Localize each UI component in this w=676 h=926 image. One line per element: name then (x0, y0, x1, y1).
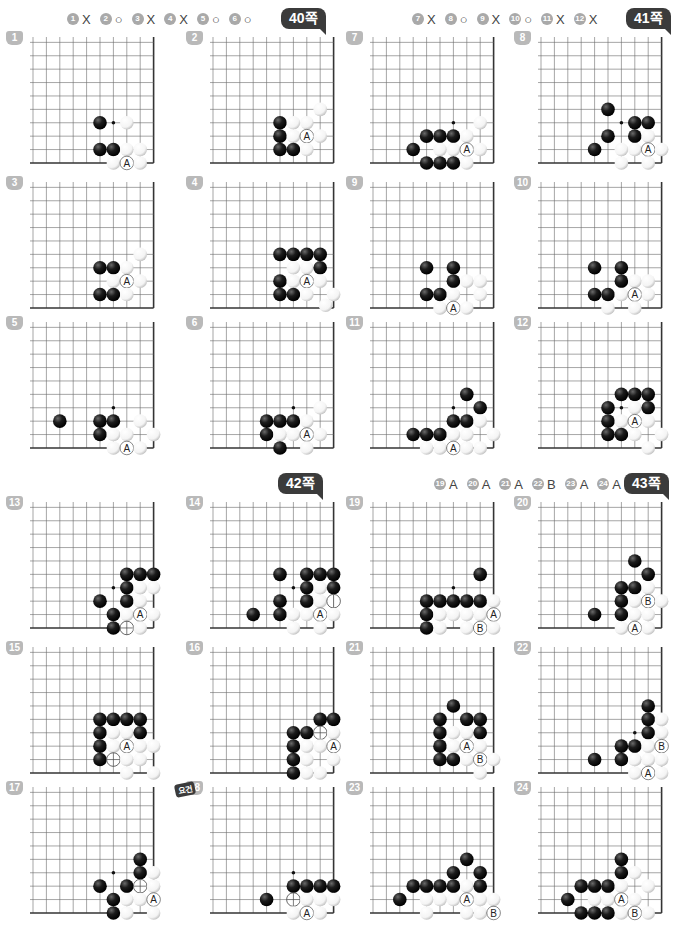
star-point (112, 121, 116, 125)
black-stone (120, 879, 134, 893)
go-board-problem: 4 A (180, 175, 350, 320)
go-grid: A (0, 780, 175, 926)
white-stone (420, 906, 434, 920)
star-point (452, 406, 456, 410)
white-stone (313, 274, 327, 288)
black-stone (420, 156, 434, 170)
black-stone (447, 274, 461, 288)
label-marker-a: A (460, 143, 474, 157)
white-stone (287, 608, 301, 622)
black-stone (300, 581, 314, 595)
white-stone (641, 621, 655, 635)
black-stone (300, 568, 314, 582)
answer-item: 4X (164, 12, 188, 27)
black-stone (53, 414, 67, 428)
white-stone (300, 441, 314, 455)
white-stone (313, 428, 327, 442)
black-stone (628, 116, 642, 130)
white-stone (420, 893, 434, 907)
white-stone (655, 594, 669, 608)
white-stone (615, 143, 629, 157)
black-stone (327, 581, 341, 595)
star-point (112, 586, 116, 590)
white-stone (300, 608, 314, 622)
label-marker-a: A (327, 739, 341, 753)
answer-number-badge: 20 (467, 478, 479, 490)
black-stone (460, 713, 474, 727)
black-stone (273, 274, 287, 288)
answer-item: 21A (499, 477, 523, 492)
answer-item: 2○ (100, 12, 123, 27)
svg-text:A: A (631, 623, 638, 634)
black-stone (473, 726, 487, 740)
white-stone (133, 414, 147, 428)
go-board-problem: 2 A (180, 30, 350, 175)
go-grid: AB (340, 495, 515, 645)
white-stone (300, 753, 314, 767)
white-stone (473, 739, 487, 753)
black-stone (107, 143, 121, 157)
white-stone (327, 288, 341, 302)
label-marker-b: B (473, 621, 487, 635)
label-marker-a: A (120, 739, 134, 753)
white-stone (628, 594, 642, 608)
black-stone (93, 713, 107, 727)
white-stone (300, 414, 314, 428)
svg-text:A: A (618, 894, 625, 905)
black-stone (420, 129, 434, 143)
black-stone (420, 608, 434, 622)
svg-text:A: A (631, 416, 638, 427)
white-stone (120, 726, 134, 740)
answer-number-badge: 12 (574, 13, 586, 25)
go-board-problem: 21 AB (340, 640, 510, 785)
white-stone (628, 143, 642, 157)
label-marker-a: A (300, 274, 314, 288)
go-board-problem: 13 A (0, 495, 170, 640)
black-stone (273, 441, 287, 455)
white-stone (133, 441, 147, 455)
black-stone (588, 608, 602, 622)
go-board-problem: 7 A (340, 30, 510, 175)
white-stone (313, 739, 327, 753)
answer-value: ○ (460, 12, 468, 27)
black-stone (615, 581, 629, 595)
white-stone (120, 428, 134, 442)
answer-value: A (449, 477, 458, 492)
white-stone (641, 274, 655, 288)
label-marker-a: A (120, 156, 134, 170)
white-stone (460, 753, 474, 767)
black-stone (460, 594, 474, 608)
black-stone (313, 261, 327, 275)
white-stone (147, 906, 161, 920)
black-stone (107, 261, 121, 275)
black-stone (107, 906, 121, 920)
white-stone (133, 621, 147, 635)
white-stone (641, 906, 655, 920)
star-point (112, 406, 116, 410)
label-marker-a: A (641, 143, 655, 157)
go-board-problem: 15 A (0, 640, 170, 785)
white-stone (313, 129, 327, 143)
black-stone (615, 739, 629, 753)
star-point (620, 406, 624, 410)
empty-point-marker (287, 893, 301, 907)
black-stone (447, 414, 461, 428)
black-stone (93, 116, 107, 130)
white-stone (133, 739, 147, 753)
go-board-problem: 14 A (180, 495, 350, 640)
label-marker-a: A (628, 414, 642, 428)
svg-text:A: A (303, 276, 310, 287)
label-marker-a: A (615, 893, 629, 907)
black-stone (615, 388, 629, 402)
answer-value: A (514, 477, 523, 492)
go-grid: A (180, 780, 355, 926)
white-stone (313, 594, 327, 608)
white-stone (327, 893, 341, 907)
white-stone (107, 739, 121, 753)
black-stone (406, 143, 420, 157)
white-stone (473, 143, 487, 157)
black-stone (601, 414, 615, 428)
label-marker-a: A (300, 906, 314, 920)
white-stone (641, 739, 655, 753)
white-stone (133, 893, 147, 907)
